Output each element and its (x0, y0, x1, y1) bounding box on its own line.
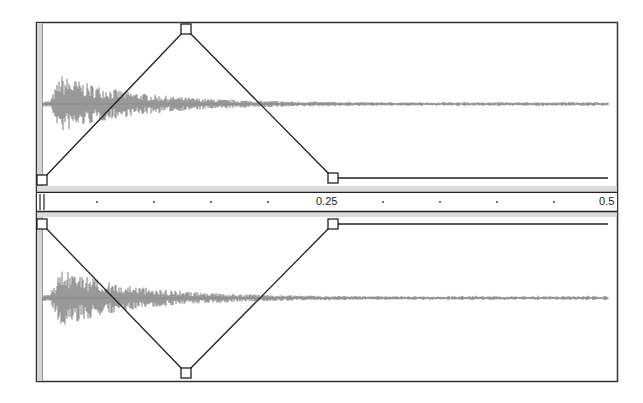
ruler-tick (382, 201, 383, 203)
ruler-label: 0.25 (316, 194, 337, 208)
envelope-node-handle[interactable] (181, 368, 191, 378)
envelope-editor: 0.250.5 (0, 0, 643, 403)
ruler-tick (496, 201, 497, 203)
ruler-label: 0.5 (599, 194, 614, 208)
envelope-node-handle[interactable] (37, 175, 47, 185)
ruler-tick (439, 201, 440, 203)
ruler-tick (96, 201, 97, 203)
ruler-tick (267, 201, 268, 203)
envelope-node-handle[interactable] (37, 219, 47, 229)
envelope-node-handle[interactable] (328, 173, 338, 183)
ruler-tick (210, 201, 211, 203)
ruler-tick (153, 201, 154, 203)
envelope-node-handle[interactable] (181, 24, 191, 34)
envelope-node-handle[interactable] (328, 219, 338, 229)
ruler-tick (553, 201, 554, 203)
